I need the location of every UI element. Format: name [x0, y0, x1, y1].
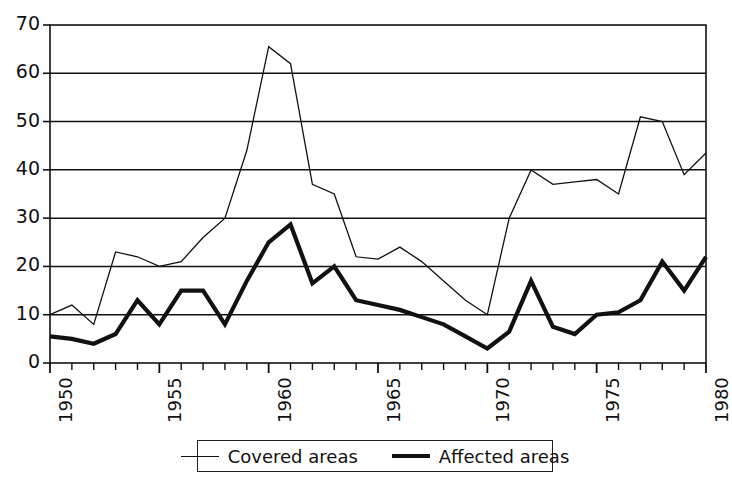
legend-entry-affected-areas: Affected areas	[392, 446, 569, 467]
y-axis-tick-label: 60	[0, 62, 40, 81]
legend-label-covered-areas: Covered areas	[228, 446, 358, 467]
y-axis-ticks	[43, 25, 50, 363]
x-axis-tick-label: 1960	[276, 377, 294, 423]
x-axis-tick-label: 1955	[166, 377, 184, 423]
x-axis-tick-label: 1950	[57, 377, 75, 423]
x-axis-tick-label: 1965	[385, 377, 403, 423]
x-axis-tick-label: 1970	[494, 377, 512, 423]
y-axis-tick-label: 10	[0, 304, 40, 323]
y-axis-tick-label: 0	[0, 352, 40, 371]
gridlines	[50, 73, 706, 314]
thick-line-swatch-icon	[392, 454, 430, 458]
legend-label-affected-areas: Affected areas	[439, 446, 569, 467]
x-axis-ticks	[50, 363, 706, 373]
x-axis-tick-label: 1975	[604, 377, 622, 423]
x-axis-tick-label: 1980	[713, 377, 731, 423]
y-axis-tick-label: 70	[0, 14, 40, 33]
thin-line-swatch-icon	[181, 456, 219, 457]
data-series	[50, 47, 706, 349]
y-axis-tick-label: 20	[0, 255, 40, 274]
legend-entry-covered-areas: Covered areas	[181, 446, 358, 467]
chart-legend: Covered areas Affected areas	[197, 440, 553, 472]
series-line-covered-areas	[50, 47, 706, 325]
y-axis-tick-label: 50	[0, 111, 40, 130]
y-axis-tick-label: 40	[0, 159, 40, 178]
series-line-affected-areas	[50, 224, 706, 348]
y-axis-tick-label: 30	[0, 207, 40, 226]
